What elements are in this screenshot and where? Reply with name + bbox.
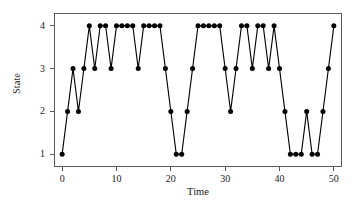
data-point — [299, 152, 304, 157]
data-point — [114, 23, 119, 28]
data-point — [76, 109, 81, 114]
data-point — [103, 23, 108, 28]
data-point — [331, 23, 336, 28]
data-point — [87, 23, 92, 28]
data-point — [152, 23, 157, 28]
data-point — [147, 23, 152, 28]
data-point — [320, 109, 325, 114]
data-point — [65, 109, 70, 114]
state-vs-time-chart: State Time 123401020304050 — [0, 0, 355, 205]
data-point — [266, 66, 271, 71]
data-point — [250, 66, 255, 71]
data-point — [234, 66, 239, 71]
data-point — [60, 152, 65, 157]
data-point — [119, 23, 124, 28]
data-point — [179, 152, 184, 157]
data-point — [109, 66, 114, 71]
data-point — [261, 23, 266, 28]
series-plot-layer — [0, 0, 355, 205]
data-point — [282, 109, 287, 114]
data-point — [125, 23, 130, 28]
data-point — [315, 152, 320, 157]
data-point — [157, 23, 162, 28]
data-point — [141, 23, 146, 28]
data-point — [326, 66, 331, 71]
data-point — [98, 23, 103, 28]
data-point — [272, 23, 277, 28]
data-point — [277, 66, 282, 71]
data-point — [81, 66, 86, 71]
data-point — [288, 152, 293, 157]
data-point — [136, 66, 141, 71]
data-point — [239, 23, 244, 28]
data-point — [185, 109, 190, 114]
data-point — [201, 23, 206, 28]
data-point — [217, 23, 222, 28]
data-point — [71, 66, 76, 71]
data-point — [190, 66, 195, 71]
series-line — [62, 26, 334, 154]
data-point — [223, 66, 228, 71]
data-point — [168, 109, 173, 114]
data-point — [212, 23, 217, 28]
data-point — [174, 152, 179, 157]
data-point — [310, 152, 315, 157]
data-point — [293, 152, 298, 157]
data-point — [92, 66, 97, 71]
data-point — [255, 23, 260, 28]
data-point — [130, 23, 135, 28]
series-point-markers — [60, 23, 337, 156]
data-point — [163, 66, 168, 71]
data-point — [244, 23, 249, 28]
data-point — [304, 109, 309, 114]
data-point — [196, 23, 201, 28]
data-point — [206, 23, 211, 28]
data-point — [228, 109, 233, 114]
